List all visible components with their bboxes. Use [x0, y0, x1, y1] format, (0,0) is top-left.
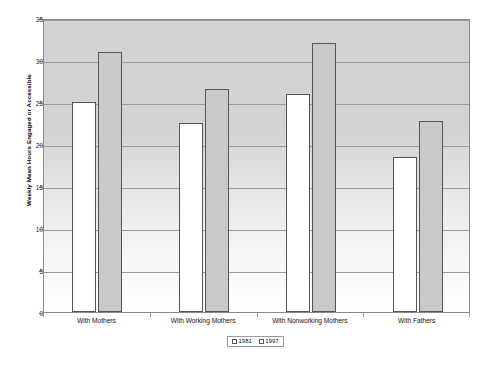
x-category-label: With Nonworking Mothers	[257, 315, 364, 327]
gridline	[44, 20, 469, 21]
x-category-label: With Working Mothers	[150, 315, 257, 327]
x-axis-category-labels: With MothersWith Working MothersWith Non…	[43, 315, 470, 329]
y-tick-label: 0	[9, 310, 43, 317]
legend-entry-1981: 1981	[232, 338, 252, 345]
bar-1981-with-mothers	[72, 102, 96, 312]
y-tick-label: 30	[9, 58, 43, 65]
y-tick-label: 10	[9, 226, 43, 233]
legend-swatch-1997-icon	[259, 339, 264, 344]
x-category-label: With Fathers	[363, 315, 470, 327]
bar-chart: Weekly Mean Hours Engaged or Accessible …	[0, 0, 485, 365]
chart-legend: 1981 1997	[227, 336, 284, 347]
bar-1997-with-working-mothers	[205, 89, 229, 312]
bar-1997-with-mothers	[98, 52, 122, 312]
bar-1981-with-nonworking-mothers	[286, 94, 310, 312]
plot-area	[43, 19, 470, 313]
y-tick-label: 5	[9, 268, 43, 275]
bar-1997-with-nonworking-mothers	[312, 43, 336, 312]
y-tick-label: 35	[9, 16, 43, 23]
legend-label-1981: 1981	[239, 338, 252, 345]
legend-label-1997: 1997	[265, 338, 278, 345]
legend-entry-1997: 1997	[259, 338, 279, 345]
y-axis-ticks: 05101520253035	[0, 0, 43, 365]
bar-1981-with-working-mothers	[179, 123, 203, 312]
bar-1997-with-fathers	[419, 121, 443, 312]
y-tick-label: 20	[9, 142, 43, 149]
bar-1981-with-fathers	[393, 157, 417, 312]
y-tick-label: 25	[9, 100, 43, 107]
y-tick-label: 15	[9, 184, 43, 191]
x-category-label: With Mothers	[43, 315, 150, 327]
legend-swatch-1981-icon	[232, 339, 237, 344]
